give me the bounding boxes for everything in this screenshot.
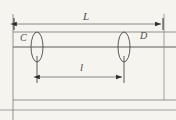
dimension-label-segment-length: l (80, 62, 83, 73)
section-label-c: C (20, 33, 27, 43)
bar-body (0, 14, 176, 120)
figure-container: L l C D (0, 0, 176, 120)
section-label-d: D (140, 31, 147, 41)
dimension-label-total-length: L (83, 11, 89, 22)
